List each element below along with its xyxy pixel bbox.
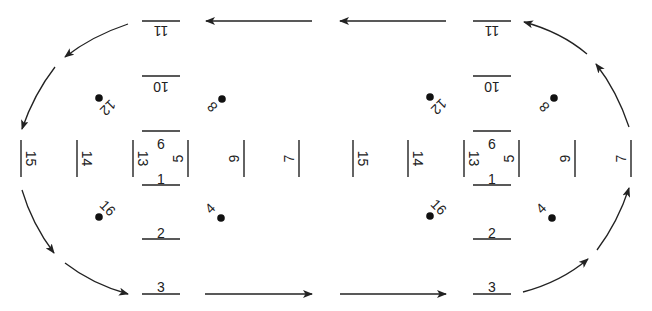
position-dot-4: 4	[202, 200, 225, 222]
position-line-14: 14	[77, 140, 95, 177]
position-label: 4	[202, 200, 219, 217]
flow-arrows	[22, 21, 629, 294]
flow-arrow-upper-left-curve-a	[65, 24, 128, 57]
position-line-6: 6	[473, 131, 511, 152]
position-line-7: 7	[281, 140, 299, 177]
flow-arrow-lower-right-curve-b	[597, 188, 629, 250]
position-dot-12: 12	[95, 94, 119, 119]
position-line-7: 7	[613, 140, 631, 177]
position-dot-8: 8	[204, 95, 226, 115]
position-label: 7	[613, 154, 629, 162]
position-dot-16: 16	[95, 197, 119, 221]
cluster-left: 11106123151413597128164	[21, 21, 299, 295]
position-line-6: 6	[142, 131, 180, 152]
position-line-1: 1	[473, 171, 511, 187]
position-label: 3	[157, 279, 165, 295]
position-dot-8: 8	[536, 94, 558, 115]
position-dot-16: 16	[426, 196, 450, 220]
dot-marker	[548, 214, 556, 222]
position-label: 9	[557, 154, 573, 162]
position-line-3: 3	[473, 279, 511, 295]
position-line-3: 3	[142, 279, 180, 295]
diagram-canvas: 1110612315141359712816411106123151413597…	[0, 0, 652, 311]
dot-marker	[218, 95, 226, 103]
position-label: 6	[157, 136, 165, 152]
position-line-11: 11	[473, 21, 511, 39]
position-label: 13	[135, 151, 151, 167]
position-line-2: 2	[142, 225, 180, 241]
position-line-14: 14	[408, 140, 426, 177]
position-label: 10	[484, 79, 500, 95]
diagram-svg: 1110612315141359712816411106123151413597…	[0, 0, 652, 311]
position-line-13: 13	[464, 140, 482, 177]
position-line-5: 5	[501, 140, 519, 177]
position-label: 1	[488, 171, 496, 187]
position-label: 2	[157, 225, 165, 241]
position-label: 15	[23, 151, 39, 167]
position-label: 2	[488, 225, 496, 241]
position-label: 15	[355, 151, 371, 167]
dot-marker	[426, 212, 434, 220]
position-line-15: 15	[21, 140, 39, 177]
position-label: 6	[488, 136, 496, 152]
position-label: 1	[157, 171, 165, 187]
position-label: 9	[226, 154, 242, 162]
position-dot-12: 12	[426, 93, 450, 118]
position-label: 7	[281, 154, 297, 162]
flow-arrow-upper-left-curve-b	[22, 67, 55, 129]
dot-marker	[217, 214, 225, 222]
position-dot-4: 4	[533, 200, 556, 222]
dot-marker	[426, 93, 434, 101]
flow-arrow-lower-left-curve-a	[22, 190, 54, 253]
position-label: 11	[154, 23, 169, 39]
position-label: 11	[485, 23, 500, 39]
dot-marker	[95, 94, 103, 102]
cluster-right: 11106123151413597128164	[353, 21, 631, 295]
dot-marker	[550, 94, 558, 102]
dot-marker	[95, 213, 103, 221]
position-label: 14	[410, 151, 426, 167]
position-line-2: 2	[473, 225, 511, 241]
flow-arrow-lower-right-curve-a	[523, 259, 588, 292]
position-line-10: 10	[142, 76, 180, 95]
position-label: 10	[153, 79, 169, 95]
position-label: 13	[466, 151, 482, 167]
position-line-1: 1	[142, 171, 180, 187]
position-label: 5	[501, 154, 517, 162]
position-line-15: 15	[353, 140, 371, 177]
position-line-9: 9	[226, 140, 244, 177]
position-label: 14	[79, 151, 95, 167]
flow-arrow-upper-right-curve-a	[524, 22, 587, 54]
position-label: 4	[533, 200, 550, 217]
position-line-13: 13	[133, 140, 151, 177]
position-line-5: 5	[170, 140, 188, 177]
flow-arrow-upper-right-curve-b	[596, 64, 629, 127]
position-label: 3	[488, 279, 496, 295]
position-label: 5	[170, 154, 186, 162]
position-line-11: 11	[142, 21, 180, 39]
position-label: 8	[204, 98, 221, 115]
flow-arrow-lower-left-curve-b	[65, 263, 128, 294]
position-label: 8	[536, 98, 553, 115]
position-line-10: 10	[473, 76, 511, 95]
clusters: 1110612315141359712816411106123151413597…	[21, 21, 631, 295]
position-line-9: 9	[557, 140, 575, 177]
